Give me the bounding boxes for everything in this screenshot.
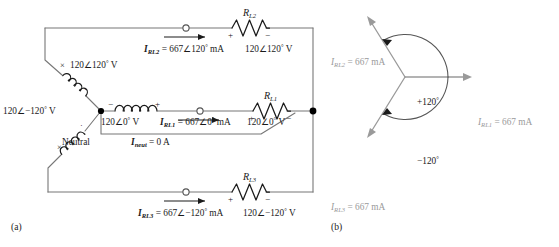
panel-label-b: (b)	[331, 222, 342, 232]
node-neutral-source	[98, 108, 104, 114]
current-arrow-top	[164, 34, 205, 40]
label-voltage-bottom: 120∠−120° V	[243, 208, 296, 218]
phasor-vector-irl1	[405, 73, 472, 81]
terminal-top	[183, 25, 189, 31]
inductor-phase1	[115, 105, 157, 111]
current-arrow-bottom	[164, 198, 205, 204]
label-resistor-rl2: RL2	[243, 8, 256, 19]
label-current-middle: IRL1 = 667∠0° mA	[160, 117, 231, 128]
polarity-minus-rl2: −	[265, 31, 270, 40]
label-neutral-current: Ineut = 0 A	[131, 138, 170, 148]
polarity-dot-phase3-top: ·	[80, 122, 83, 130]
panel-label-a: (a)	[11, 222, 22, 232]
polarity-plus-rl2: +	[228, 31, 233, 40]
polarity-plus-phase1: +	[155, 100, 160, 109]
label-voltage-top: 120∠120° V	[245, 44, 292, 54]
polarity-plus-rl1: +	[249, 114, 254, 123]
phasor-label-irl3: IRL3 = 667 mA	[331, 203, 385, 213]
label-source-phase3: 120∠−120° V	[3, 106, 56, 116]
polarity-minus-rl1: −	[286, 114, 291, 123]
label-current-bottom: IRL3 = 667∠−120° mA	[138, 208, 223, 219]
terminal-bottom	[183, 189, 189, 195]
label-neutral: Neutral	[62, 138, 90, 147]
phasor-label-irl2: IRL2 = 667 mA	[331, 58, 385, 68]
node-neutral-load	[310, 108, 317, 115]
label-resistor-rl3: RL3	[243, 172, 256, 183]
label-resistor-rl1: RL1	[264, 91, 277, 102]
polarity-dot-phase2-bottom: ·	[84, 86, 87, 94]
resistor-rl2	[232, 20, 270, 36]
phasor-label-irl1: IRL1 = 667 mA	[478, 118, 532, 128]
angle-arc-plus120	[384, 35, 448, 77]
angle-label-plus120: +120°	[417, 97, 439, 107]
label-current-top: IRL2 = 667∠120° mA	[144, 44, 224, 55]
polarity-minus-phase1: −	[108, 100, 113, 109]
label-source-phase2: 120∠120° V	[70, 60, 117, 70]
polarity-minus-rl3: −	[265, 195, 270, 204]
figure-root: IRL2 = 667∠120° mA 120∠120° V RL2 + − IR…	[0, 0, 559, 247]
polarity-dot-phase2-top: ×	[60, 62, 65, 70]
phasor-vector-irl3	[367, 77, 405, 138]
label-source-phase1: 120∠0° V	[101, 117, 139, 127]
terminal-middle	[197, 108, 203, 114]
resistor-rl3	[232, 184, 270, 200]
angle-label-minus120: −120°	[417, 156, 439, 166]
polarity-plus-rl3: +	[228, 195, 233, 204]
